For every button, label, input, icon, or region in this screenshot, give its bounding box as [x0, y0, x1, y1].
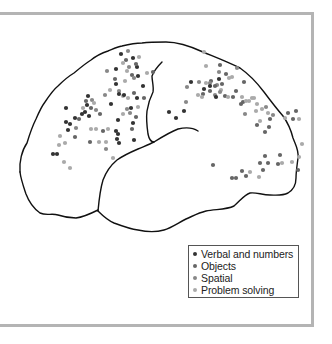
activation-dot: [114, 67, 118, 71]
activation-dot: [68, 122, 72, 126]
activation-dot: [89, 127, 93, 131]
legend-label: Verbal and numbers: [201, 248, 293, 260]
activation-dot: [185, 85, 189, 89]
activation-dot: [131, 121, 135, 125]
activation-dot: [224, 72, 228, 76]
activation-dot: [213, 84, 217, 88]
activation-dot: [226, 95, 230, 99]
activation-dot: [73, 135, 77, 139]
activation-dot: [136, 105, 140, 109]
activation-dot: [134, 115, 138, 119]
activation-dot: [257, 175, 261, 179]
activation-dot: [125, 69, 129, 73]
activation-dot: [81, 106, 85, 110]
activation-dot: [64, 120, 68, 124]
activation-dot: [202, 50, 206, 54]
activation-dot: [64, 106, 68, 110]
activation-dot: [208, 84, 212, 88]
activation-dot: [258, 119, 262, 123]
activation-dot: [263, 130, 267, 134]
activation-dot: [255, 123, 259, 127]
activation-dot: [217, 70, 221, 74]
activation-dot: [151, 70, 155, 74]
bullet-icon: [193, 252, 197, 256]
activation-dot: [247, 99, 251, 103]
activation-dot: [258, 161, 262, 165]
activation-dot: [87, 114, 91, 118]
activation-dot: [68, 166, 72, 170]
activation-dot: [80, 112, 84, 116]
activation-dot: [255, 102, 259, 106]
activation-dot: [109, 102, 113, 106]
activation-dot: [240, 169, 244, 173]
activation-dot: [123, 79, 127, 83]
legend-label: Spatial: [201, 272, 232, 284]
bullet-icon: [193, 264, 197, 268]
activation-dot: [294, 109, 298, 113]
activation-dot: [62, 160, 66, 164]
activation-dot: [174, 116, 178, 120]
activation-dot: [234, 89, 238, 93]
legend-item-objects: Objects: [193, 260, 298, 272]
activation-dot: [57, 143, 61, 147]
activation-dot: [291, 117, 295, 121]
activation-dot: [117, 141, 121, 145]
activation-dot: [234, 176, 238, 180]
activation-dot: [85, 103, 89, 107]
activation-dot: [248, 170, 252, 174]
activation-dot: [121, 61, 125, 65]
activation-dot: [132, 76, 136, 80]
activation-dot: [125, 107, 129, 111]
activation-dot: [116, 118, 120, 122]
activation-dot: [51, 152, 55, 156]
activation-dot: [286, 111, 290, 115]
activation-dot: [290, 160, 294, 164]
activation-dots: [51, 49, 304, 180]
activation-dot: [254, 109, 258, 113]
activation-dot: [108, 88, 112, 92]
activation-dot: [280, 161, 284, 165]
activation-dot: [94, 108, 98, 112]
activation-dot: [189, 80, 193, 84]
activation-dot: [264, 105, 268, 109]
activation-dot: [218, 90, 222, 94]
activation-dot: [124, 58, 128, 62]
activation-dot: [211, 163, 215, 167]
activation-dot: [92, 101, 96, 105]
activation-dot: [297, 155, 301, 159]
activation-dot: [182, 109, 186, 113]
activation-dot: [119, 52, 123, 56]
activation-dot: [200, 95, 204, 99]
activation-dot: [197, 80, 201, 84]
activation-dot: [128, 111, 132, 115]
activation-dot: [283, 116, 287, 120]
activation-dot: [63, 141, 67, 145]
activation-dot: [114, 82, 118, 86]
activation-dot: [196, 93, 200, 97]
activation-dot: [121, 112, 125, 116]
legend-label: Objects: [201, 260, 236, 272]
activation-dot: [117, 92, 121, 96]
activation-dot: [105, 69, 109, 73]
bullet-icon: [193, 276, 197, 280]
activation-dot: [127, 65, 131, 69]
activation-dot: [66, 128, 70, 132]
activation-dot: [184, 100, 188, 104]
activation-dot: [145, 71, 149, 75]
activation-dot: [244, 174, 248, 178]
activation-dot: [134, 62, 138, 66]
activation-dot: [297, 117, 301, 121]
legend: Verbal and numbers Objects Spatial Probl…: [188, 245, 299, 298]
activation-dot: [240, 95, 244, 99]
activation-dot: [122, 93, 126, 97]
activation-dot: [131, 56, 135, 60]
activation-dot: [103, 93, 107, 97]
activation-dot: [204, 81, 208, 85]
activation-dot: [214, 95, 218, 99]
activation-dot: [276, 162, 280, 166]
activation-dot: [86, 94, 90, 98]
activation-dot: [106, 127, 110, 131]
activation-dot: [89, 106, 93, 110]
activation-dot: [266, 161, 270, 165]
activation-dot: [111, 156, 115, 160]
